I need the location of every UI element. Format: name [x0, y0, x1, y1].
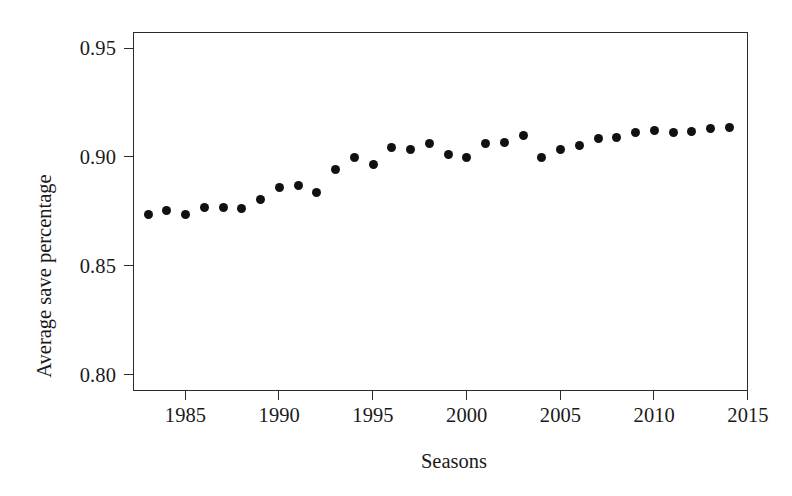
y-tick-mark [124, 265, 133, 266]
y-axis-title: Average save percentage [24, 0, 68, 496]
x-tick-mark [185, 391, 186, 400]
x-tick-label: 1995 [328, 405, 418, 426]
scatter-plot-figure: 0.800.850.900.95 19851990199520002005201… [0, 0, 792, 496]
x-tick-label: 2010 [609, 405, 699, 426]
x-tick-label: 1985 [141, 405, 231, 426]
x-tick-label: 1990 [234, 405, 324, 426]
x-tick-mark [466, 391, 467, 400]
x-tick-mark [372, 391, 373, 400]
y-tick-mark [124, 48, 133, 49]
y-tick-mark [124, 156, 133, 157]
x-tick-mark [747, 391, 748, 400]
x-tick-label: 2000 [422, 405, 512, 426]
x-tick-mark [560, 391, 561, 400]
plot-area [133, 32, 748, 391]
x-tick-mark [653, 391, 654, 400]
x-tick-label: 2015 [703, 405, 792, 426]
x-axis-title: Seasons [0, 450, 792, 473]
x-axis-title-text: Seasons [421, 450, 487, 472]
y-tick-mark [124, 374, 133, 375]
x-tick-label: 2005 [516, 405, 606, 426]
x-tick-mark [278, 391, 279, 400]
y-axis-title-text: Average save percentage [33, 174, 55, 377]
